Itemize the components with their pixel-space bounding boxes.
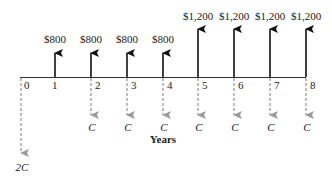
outflow-label-3: C bbox=[124, 121, 132, 133]
period-label-6: 6 bbox=[238, 79, 244, 91]
period-label-1: 1 bbox=[52, 79, 58, 91]
period-label-3: 3 bbox=[131, 79, 137, 91]
period-label-2: 2 bbox=[95, 79, 101, 91]
outflow-label-5: C bbox=[195, 121, 203, 133]
period-label-4: 4 bbox=[167, 79, 173, 91]
outflow-label-0: 2C bbox=[16, 161, 30, 173]
outflow-label-2: C bbox=[88, 121, 96, 133]
period-labels: 0 1 2 3 4 5 6 7 8 bbox=[24, 79, 316, 91]
outflow-labels: 2C C C C C C C C bbox=[16, 121, 312, 173]
outflow-label-7: C bbox=[267, 121, 275, 133]
axis-title: Years bbox=[150, 133, 177, 145]
period-label-7: 7 bbox=[274, 79, 280, 91]
period-label-0: 0 bbox=[24, 79, 30, 91]
inflow-label-6: $1,200 bbox=[219, 10, 250, 22]
inflow-labels: $800 $800 $800 $800 $1,200 $1,200 $1,200… bbox=[44, 10, 322, 45]
outflow-label-4: C bbox=[160, 121, 168, 133]
outflow-label-6: C bbox=[231, 121, 239, 133]
inflow-label-2: $800 bbox=[80, 33, 103, 45]
period-label-5: 5 bbox=[202, 79, 208, 91]
inflow-label-4: $800 bbox=[152, 33, 175, 45]
outflow-label-8: C bbox=[303, 121, 311, 133]
inflow-label-5: $1,200 bbox=[183, 10, 214, 22]
inflow-label-1: $800 bbox=[44, 33, 67, 45]
inflow-label-3: $800 bbox=[116, 33, 139, 45]
cash-flow-diagram: 0 1 2 3 4 5 6 7 8 $800 $800 $800 $800 $1… bbox=[0, 0, 332, 183]
inflow-label-7: $1,200 bbox=[255, 10, 286, 22]
inflow-label-8: $1,200 bbox=[291, 10, 322, 22]
period-label-8: 8 bbox=[310, 79, 316, 91]
